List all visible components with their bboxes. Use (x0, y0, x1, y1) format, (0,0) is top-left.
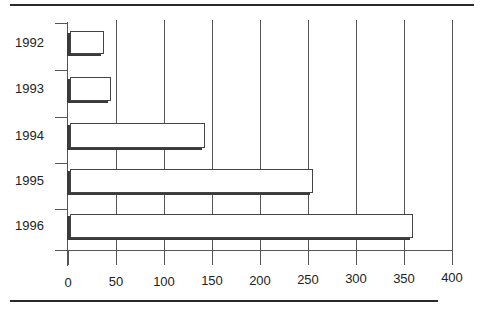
x-axis-baseline (55, 250, 453, 251)
bar-1993 (70, 77, 111, 101)
x-tick (212, 251, 213, 265)
bar-1996 (70, 214, 413, 238)
y-axis (67, 22, 68, 266)
x-tick-label: 250 (288, 272, 328, 287)
x-tick-label: 50 (96, 274, 136, 289)
x-tick-label: 0 (48, 275, 88, 290)
y-category-label: 1992 (0, 35, 44, 50)
x-tick-label: 400 (432, 270, 472, 285)
bar-1994 (70, 123, 205, 148)
top-rule (10, 4, 474, 6)
bottom-rule (10, 300, 438, 302)
x-tick-label: 350 (384, 271, 424, 286)
x-tick (260, 251, 261, 265)
x-tick-label: 100 (144, 274, 184, 289)
y-category-label: 1994 (0, 128, 44, 143)
x-tick-label: 300 (336, 271, 376, 286)
gridline (452, 20, 453, 265)
y-category-label: 1995 (0, 173, 44, 188)
y-category-label: 1996 (0, 218, 44, 233)
x-tick (68, 251, 69, 265)
x-tick (116, 251, 117, 265)
x-tick (404, 251, 405, 265)
x-tick (452, 251, 453, 265)
x-tick (308, 251, 309, 265)
y-category-label: 1993 (0, 81, 44, 96)
x-tick-label: 150 (192, 273, 232, 288)
bar-1995 (70, 169, 313, 193)
x-tick-label: 200 (240, 273, 280, 288)
x-tick (356, 251, 357, 265)
x-tick (164, 251, 165, 265)
bar-1992 (70, 31, 104, 54)
